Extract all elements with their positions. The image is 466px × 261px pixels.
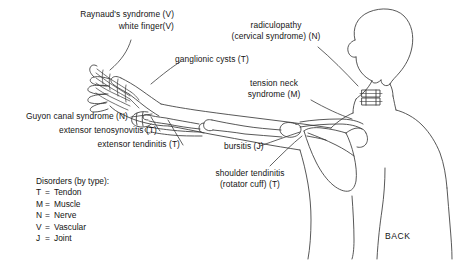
annotation-shoulder-tendinitis-line2: (rotator cuff) (T) xyxy=(198,179,302,190)
annotation-extensor-tenosynovitis: extensor tenosynovitis (T) xyxy=(20,125,157,136)
fingers-outline xyxy=(88,65,110,112)
annotation-extensor-tenosynovitis-label: extensor tenosynovitis (T) xyxy=(59,125,157,135)
diagram-canvas: Raynaud's syndrome (V) white finger(V) g… xyxy=(0,0,466,261)
legend-label-tendon: Tendon xyxy=(54,187,81,197)
view-orientation-label: BACK xyxy=(385,231,410,241)
torso-outline xyxy=(300,110,452,259)
annotation-ganglionic-cysts-label: ganglionic cysts (T) xyxy=(175,54,249,64)
annotation-raynauds-label: Raynaud's syndrome (V) xyxy=(80,9,174,19)
legend-eq-joint: = xyxy=(45,233,54,244)
legend-eq-nerve: = xyxy=(45,210,54,221)
annotation-bursitis: bursitis (J) xyxy=(224,141,264,152)
annotation-ganglionic-cysts: ganglionic cysts (T) xyxy=(175,54,249,65)
legend: Disorders (by type): T=Tendon M=Muscle N… xyxy=(36,176,109,244)
legend-label-joint: Joint xyxy=(54,233,72,243)
legend-key-nerve: N xyxy=(36,210,45,221)
legend-title: Disorders (by type): xyxy=(36,176,109,187)
legend-entry-muscle: M=Muscle xyxy=(36,199,109,210)
annotation-tension-neck: tension neck syndrome (M) xyxy=(238,78,310,99)
legend-label-nerve: Nerve xyxy=(54,210,76,220)
annotation-raynauds: Raynaud's syndrome (V) xyxy=(14,9,174,20)
annotation-extensor-tendinitis: extensor tendinitis (T) xyxy=(40,139,180,150)
annotation-guyon-canal-label: Guyon canal syndrome (N) xyxy=(26,111,128,121)
annotation-shoulder-tendinitis-line1: shoulder tendinitis xyxy=(198,168,302,179)
annotation-radiculopathy-line1: radiculopathy xyxy=(230,20,322,31)
legend-eq-tendon: = xyxy=(45,187,54,198)
annotation-shoulder-tendinitis: shoulder tendinitis (rotator cuff) (T) xyxy=(198,168,302,189)
legend-key-vascular: V xyxy=(36,222,45,233)
annotation-radiculopathy-line2: (cervical syndrome) (N) xyxy=(230,31,322,42)
scapula-bone xyxy=(304,128,368,192)
legend-label-muscle: Muscle xyxy=(54,199,81,209)
legend-entry-nerve: N=Nerve xyxy=(36,210,109,221)
annotation-white-finger-label: white finger(V) xyxy=(119,21,174,31)
annotation-guyon-canal: Guyon canal syndrome (N) xyxy=(0,111,128,122)
legend-eq-vascular: = xyxy=(45,222,54,233)
annotation-tension-neck-line2: syndrome (M) xyxy=(238,89,310,100)
annotation-tension-neck-line1: tension neck xyxy=(238,78,310,89)
legend-key-muscle: M xyxy=(36,199,45,210)
annotation-white-finger: white finger(V) xyxy=(14,21,174,32)
annotation-extensor-tendinitis-label: extensor tendinitis (T) xyxy=(98,139,180,149)
annotation-bursitis-label: bursitis (J) xyxy=(224,141,264,151)
legend-label-vascular: Vascular xyxy=(54,222,86,232)
legend-entry-joint: J=Joint xyxy=(36,233,109,244)
legend-key-joint: J xyxy=(36,233,45,244)
legend-key-tendon: T xyxy=(36,187,45,198)
neck-outline xyxy=(353,96,396,113)
legend-entry-tendon: T=Tendon xyxy=(36,187,109,198)
legend-entry-vascular: V=Vascular xyxy=(36,222,109,233)
annotation-radiculopathy: radiculopathy (cervical syndrome) (N) xyxy=(230,20,322,41)
legend-eq-muscle: = xyxy=(45,199,54,210)
